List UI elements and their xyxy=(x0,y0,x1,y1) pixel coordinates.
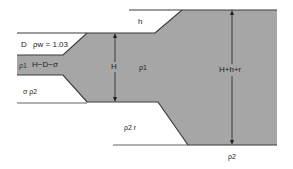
thin-crust-density-label: ρ1 xyxy=(19,62,27,69)
water-depth-label: D xyxy=(21,41,27,49)
thin-crust-thickness-label: H−D−σ xyxy=(32,61,58,69)
mantle-left-label: σ ρ2 xyxy=(23,88,37,95)
thick-crust-height-label: H xyxy=(111,63,117,71)
isostasy-diagram xyxy=(0,0,293,169)
elevation-label: h xyxy=(138,18,142,26)
root-label: ρ2 r xyxy=(124,124,136,131)
thick-crust-density-label: ρ1 xyxy=(139,64,147,71)
crust-body xyxy=(17,10,277,145)
mantle-bottom-label: ρ2 xyxy=(228,153,236,160)
total-thickness-label: H+h+r xyxy=(219,66,241,74)
water-density-label: ρw = 1.03 xyxy=(33,41,68,49)
